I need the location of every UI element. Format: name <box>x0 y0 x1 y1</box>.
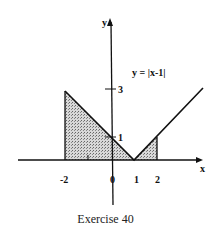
tick-label-y3: 3 <box>118 84 123 95</box>
tick-label-1: 1 <box>134 174 139 185</box>
tick-label-neg2: -2 <box>60 174 68 185</box>
graph-figure: y x y = |x-1| 3 1 -2 0 1 2 <box>0 0 211 244</box>
tick-label-0: 0 <box>110 174 115 185</box>
tick-label-2: 2 <box>155 174 160 185</box>
x-axis-label: x <box>200 163 205 174</box>
figure-caption: Exercise 40 <box>0 212 211 227</box>
tick-label-y1: 1 <box>118 132 123 143</box>
y-axis-label: y <box>102 17 107 28</box>
y-axis-arrow-icon <box>107 18 113 26</box>
equation-label: y = |x-1| <box>132 67 165 78</box>
